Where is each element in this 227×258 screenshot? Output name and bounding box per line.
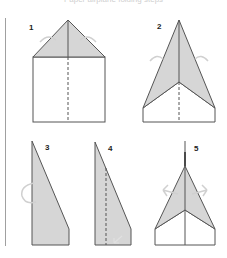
step-number: 3 [45,143,50,152]
step-1: 1 [29,20,105,122]
step-4: 4 [95,142,131,245]
step-3: 3 [22,141,69,245]
paper-sheet [33,57,105,122]
step-number: 5 [194,144,199,153]
step-5: 5 [155,141,215,245]
folded-half [32,141,69,245]
folding-diagram: 1 2 3 4 5 [0,0,227,258]
fold-arrow-left-icon [150,56,163,61]
folded-half [95,142,131,245]
fold-arrow-right-icon [195,56,208,61]
step-2: 2 [143,20,215,122]
step-number: 1 [29,23,34,32]
step-number: 4 [108,144,113,153]
step-number: 2 [157,22,162,31]
